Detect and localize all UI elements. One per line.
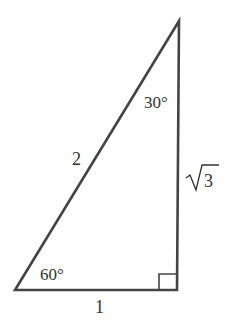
triangle xyxy=(15,21,179,290)
side-label-height: 3 xyxy=(186,165,219,191)
radical-sign-icon xyxy=(186,165,219,190)
triangle-diagram: 30° 60° 2 1 3 xyxy=(0,0,227,324)
angle-label-bottom-left: 60° xyxy=(40,265,64,284)
right-angle-marker xyxy=(159,274,177,290)
angle-label-top: 30° xyxy=(144,93,168,112)
side-label-height-radicand: 3 xyxy=(204,171,213,191)
side-label-hypotenuse: 2 xyxy=(72,149,81,169)
side-label-base: 1 xyxy=(95,297,104,317)
